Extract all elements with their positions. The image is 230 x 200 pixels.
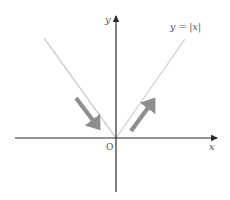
left-branch-line (44, 38, 116, 138)
increasing-arrow-icon (131, 101, 153, 131)
x-axis-label: x (209, 142, 215, 152)
abs-value-graph: y y = |x| O x (0, 0, 230, 200)
y-axis-label: y (105, 15, 111, 25)
function-label: y = |x| (170, 22, 201, 32)
origin-label: O (106, 143, 113, 152)
right-branch-line (116, 39, 185, 138)
decreasing-arrow-icon (76, 98, 98, 127)
